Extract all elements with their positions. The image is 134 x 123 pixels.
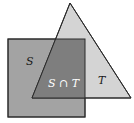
label-intersection: S ∩ T [48, 77, 81, 90]
venn-diagram: S T S ∩ T [0, 0, 134, 123]
label-s: S [26, 55, 34, 68]
